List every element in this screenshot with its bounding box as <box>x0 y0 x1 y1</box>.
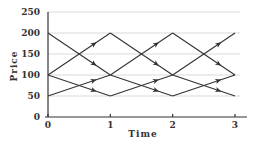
y-tick-label: 100 <box>21 70 40 80</box>
x-tick-label: 2 <box>170 120 176 130</box>
y-tick-labels: 050100150200250 <box>21 7 40 122</box>
x-tick-label: 0 <box>45 120 51 130</box>
y-tick-label: 50 <box>27 91 40 101</box>
arrow-icon <box>215 42 221 48</box>
y-tick-label: 200 <box>21 28 40 38</box>
x-tick-label: 3 <box>232 120 238 130</box>
y-tick-label: 250 <box>21 7 40 17</box>
x-axis-title: Time <box>128 129 157 139</box>
price-paths <box>48 33 235 96</box>
arrow-icon <box>215 60 221 66</box>
arrow-icon <box>153 60 159 66</box>
arrow-icon <box>90 42 96 48</box>
arrow-icon <box>90 60 96 66</box>
y-tick-label: 0 <box>34 112 40 122</box>
price-time-chart: 050100150200250 0123 Time Price <box>0 0 258 145</box>
x-tick-label: 1 <box>107 120 113 130</box>
arrow-icon <box>153 42 159 48</box>
y-tick-label: 150 <box>21 49 40 59</box>
y-axis-title: Price <box>9 50 19 81</box>
